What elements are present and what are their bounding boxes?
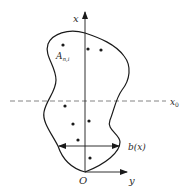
point: [86, 47, 89, 50]
point: [71, 122, 74, 125]
origin-label: O: [79, 175, 87, 186]
point-label: An,i: [55, 51, 70, 62]
region-diagram: x y O x0 b(x) An,i: [0, 0, 188, 194]
reference-line-label: x0: [170, 97, 179, 108]
reference-line-label-subscript: 0: [175, 101, 179, 108]
point: [76, 138, 79, 141]
point: [63, 104, 66, 107]
point-label-subscript: n,i: [63, 56, 70, 62]
point: [61, 43, 64, 46]
point: [87, 119, 90, 122]
point: [88, 156, 91, 159]
y-axis-label: y: [128, 175, 135, 186]
point: [99, 48, 102, 51]
width-marker-label: b(x): [128, 142, 146, 152]
x-axis-label: x: [73, 13, 79, 24]
